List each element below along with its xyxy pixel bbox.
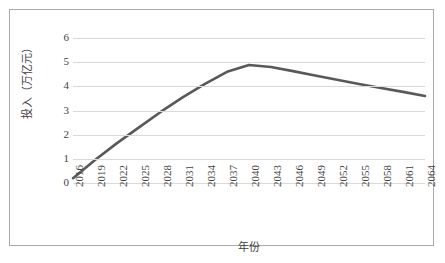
x-tick-label: 2034 [205, 163, 217, 209]
gridline [73, 111, 425, 112]
gridline [73, 38, 425, 39]
x-tick-label: 2052 [337, 163, 349, 209]
y-tick-label: 3 [39, 105, 69, 116]
plot-area [73, 38, 425, 183]
y-tick-label: 5 [39, 56, 69, 67]
x-tick-label: 2022 [117, 163, 129, 209]
x-tick-label: 2031 [183, 163, 195, 209]
x-tick-label: 2055 [359, 163, 371, 209]
x-tick-label: 2046 [293, 163, 305, 209]
y-axis-ticks: 0123456 [37, 38, 69, 183]
gridline [73, 62, 425, 63]
y-tick-label: 2 [39, 129, 69, 140]
x-tick-label: 2061 [403, 163, 415, 209]
x-tick-label: 2016 [73, 163, 85, 209]
x-axis-ticks: 2016201920222025202820312034203720402043… [73, 186, 425, 232]
x-tick-label: 2019 [95, 163, 107, 209]
y-tick-label: 0 [39, 177, 69, 188]
x-tick-label: 2064 [425, 163, 437, 209]
y-tick-label: 6 [39, 32, 69, 43]
x-axis-title: 年份 [73, 238, 425, 254]
gridline [73, 86, 425, 87]
chart-figure: 投入（万亿元） 0123456 201620192022202520282031… [0, 0, 445, 263]
gridline [73, 159, 425, 160]
y-tick-label: 1 [39, 153, 69, 164]
x-tick-label: 2043 [271, 163, 283, 209]
x-tick-label: 2025 [139, 163, 151, 209]
x-tick-label: 2058 [381, 163, 393, 209]
x-tick-label: 2028 [161, 163, 173, 209]
chart-frame: 投入（万亿元） 0123456 201620192022202520282031… [9, 9, 434, 246]
x-tick-label: 2049 [315, 163, 327, 209]
y-axis-title: 投入（万亿元） [18, 20, 34, 140]
y-tick-label: 4 [39, 80, 69, 91]
x-tick-label: 2037 [227, 163, 239, 209]
gridline [73, 135, 425, 136]
x-tick-label: 2040 [249, 163, 261, 209]
